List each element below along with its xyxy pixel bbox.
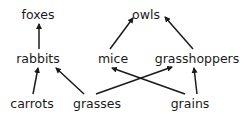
node-grasses: grasses: [73, 96, 121, 111]
nodes-group: foxesowlsrabbitsmicegrasshopperscarrotsg…: [10, 7, 239, 111]
node-grasshoppers: grasshoppers: [155, 51, 240, 66]
node-owls: owls: [132, 7, 160, 22]
node-foxes: foxes: [22, 7, 55, 22]
node-rabbits: rabbits: [16, 51, 60, 66]
arrow-grains-to-mice: [112, 68, 185, 94]
node-carrots: carrots: [10, 96, 53, 111]
node-mice: mice: [98, 51, 129, 66]
arrow-carrots-to-rabbits: [33, 68, 38, 94]
arrow-grains-to-grasshoppers: [194, 68, 197, 94]
node-grains: grains: [171, 96, 210, 111]
food-web-diagram: foxesowlsrabbitsmicegrasshopperscarrotsg…: [0, 0, 245, 128]
arrow-grasses-to-rabbits: [56, 68, 84, 94]
arrow-grasses-to-grasshoppers: [96, 67, 172, 94]
arrow-grasshoppers-to-owls: [165, 17, 193, 49]
arrow-mice-to-owls: [110, 18, 133, 49]
